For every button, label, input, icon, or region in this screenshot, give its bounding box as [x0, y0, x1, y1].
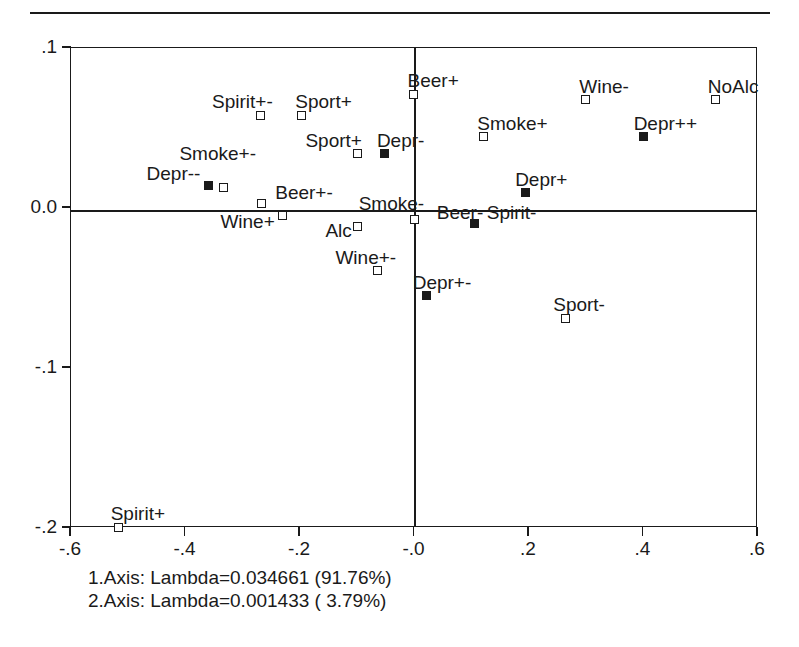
x-tick-label: .6: [727, 538, 787, 560]
data-point-label: Sport-: [553, 294, 605, 315]
x-tick-mark: [298, 527, 300, 536]
data-point-label: Depr+: [515, 169, 567, 190]
x-tick-mark: [527, 527, 529, 536]
y-tick-label: -.2: [0, 516, 57, 538]
x-tick-label: .4: [613, 538, 673, 560]
data-point-marker[interactable]: [278, 211, 287, 220]
x-tick-label: -.2: [269, 538, 329, 560]
data-point-marker[interactable]: [470, 219, 479, 228]
data-point-label: Depr--: [147, 163, 201, 184]
y-tick-label: 0.0: [0, 196, 57, 218]
data-point-label: Spirit+: [111, 503, 165, 524]
x-tick-mark: [642, 527, 644, 536]
axis-inertia-annotations: 1.Axis: Lambda=0.034661 (91.76%) 2.Axis:…: [88, 566, 392, 612]
annotation-axis-2: 2.Axis: Lambda=0.001433 ( 3.79%): [88, 589, 392, 612]
y-tick-label: .1: [0, 36, 57, 58]
data-point-label: NoAlc: [708, 76, 759, 97]
data-point-label: Sport+: [305, 130, 362, 151]
data-point-label: Spirit-: [487, 202, 537, 223]
annotation-axis-1: 1.Axis: Lambda=0.034661 (91.76%): [88, 566, 392, 589]
data-point-label: Wine+: [220, 211, 274, 232]
x-tick-mark: [184, 527, 186, 536]
data-point-label: Depr+-: [413, 272, 472, 293]
data-point-label: Alc: [325, 220, 351, 241]
data-point-label: Depr++: [634, 113, 697, 134]
y-tick-label: -.1: [0, 356, 57, 378]
data-point-label: Wine+-: [335, 247, 396, 268]
x-tick-label: .2: [498, 538, 558, 560]
data-point-label: Beer+-: [275, 182, 333, 203]
correspondence-analysis-figure: -.6-.4-.2-.0.2.4.6 .10.0-.1-.2 Beer+Wine…: [0, 0, 799, 647]
x-tick-mark: [756, 527, 758, 536]
x-tick-mark: [413, 527, 415, 536]
data-point-label: Wine-: [579, 76, 629, 97]
data-point-label: Smoke-: [359, 193, 424, 214]
y-tick-mark: [62, 366, 71, 368]
data-point-marker[interactable]: [219, 183, 228, 192]
data-point-marker[interactable]: [410, 215, 419, 224]
x-tick-label: -.6: [40, 538, 100, 560]
x-tick-label: -.4: [155, 538, 215, 560]
data-point-marker[interactable]: [257, 199, 266, 208]
data-point-label: Sport+: [295, 91, 352, 112]
data-point-label: Depr-: [377, 130, 425, 151]
y-tick-mark: [62, 206, 71, 208]
header-divider: [30, 12, 770, 14]
data-point-label: Beer+: [408, 70, 459, 91]
data-point-label: Smoke+-: [179, 143, 256, 164]
y-tick-mark: [62, 46, 71, 48]
data-point-marker[interactable]: [353, 222, 362, 231]
data-point-marker[interactable]: [204, 181, 213, 190]
x-tick-label: -.0: [384, 538, 444, 560]
data-point-label: Spirit+-: [212, 91, 273, 112]
y-tick-mark: [62, 526, 71, 528]
x-tick-mark: [69, 527, 71, 536]
data-point-label: Smoke+: [477, 113, 547, 134]
